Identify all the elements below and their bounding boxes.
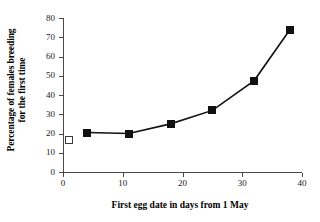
y-tick-label: 50 <box>33 71 55 80</box>
data-point <box>83 129 91 137</box>
x-axis-title: First egg date in days from 1 May <box>45 200 315 210</box>
y-tick-label: 0 <box>33 168 55 177</box>
x-tick <box>183 173 184 177</box>
x-tick-label: 30 <box>227 179 257 188</box>
data-point <box>125 130 133 138</box>
x-tick-label: 0 <box>48 179 78 188</box>
y-tick-label: 40 <box>33 91 55 100</box>
x-tick <box>242 173 243 177</box>
y-tick-label: 20 <box>33 129 55 138</box>
y-tick-label: 60 <box>33 52 55 61</box>
data-point-open <box>65 136 73 144</box>
x-tick-label: 40 <box>287 179 317 188</box>
data-point <box>167 120 175 128</box>
y-tick-label: 80 <box>33 14 55 23</box>
x-tick <box>123 173 124 177</box>
y-tick-label: 70 <box>33 33 55 42</box>
x-tick-label: 20 <box>168 179 198 188</box>
plot-area: 01020304050607080 010203040 <box>63 18 302 173</box>
series-line <box>87 30 290 134</box>
data-point <box>250 77 258 85</box>
x-tick-label: 10 <box>108 179 138 188</box>
data-point <box>208 106 216 114</box>
x-tick <box>302 173 303 177</box>
series-lines <box>63 18 302 173</box>
data-point <box>286 26 294 34</box>
y-tick-label: 10 <box>33 148 55 157</box>
y-axis-title-line-1: Percentage of females breeding <box>6 0 17 190</box>
x-tick <box>63 173 64 177</box>
y-axis-title-line-2: for the first time <box>17 0 28 190</box>
chart-figure: Percentage of females breeding for the f… <box>0 0 320 222</box>
y-tick-label: 30 <box>33 110 55 119</box>
